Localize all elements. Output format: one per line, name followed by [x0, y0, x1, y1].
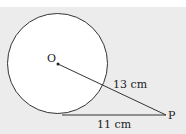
center-label: O — [47, 52, 56, 65]
hypotenuse-length-label: 13 cm — [113, 78, 148, 91]
point-p-label: P — [168, 109, 176, 122]
tangent-diagram: O P 13 cm 11 cm — [0, 0, 186, 134]
tangent-length-label: 11 cm — [97, 118, 132, 131]
center-dot — [57, 63, 60, 66]
